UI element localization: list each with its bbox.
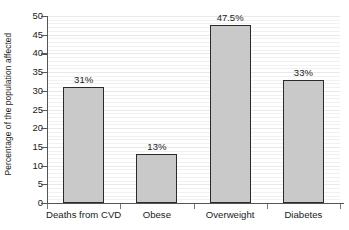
y-tick-mark — [41, 184, 47, 185]
gridline-minor — [47, 113, 340, 114]
x-tick-mark — [194, 204, 195, 209]
gridline-minor — [47, 162, 340, 163]
y-tick-label: 25 — [18, 105, 43, 115]
y-tick-label: 45 — [18, 30, 43, 40]
gridlines — [47, 16, 340, 203]
gridline-minor — [47, 196, 340, 197]
x-category-label: Deaths from CVD — [24, 209, 144, 221]
gridline-minor — [47, 83, 340, 84]
gridline-minor — [47, 117, 340, 118]
gridline-minor — [47, 199, 340, 200]
gridline-minor — [47, 27, 340, 28]
gridline-minor — [47, 102, 340, 103]
x-tick-mark — [47, 204, 48, 209]
gridline-minor — [47, 136, 340, 137]
y-tick-mark — [41, 110, 47, 111]
gridline-minor — [47, 177, 340, 178]
y-tick-mark — [41, 91, 47, 92]
y-tick-label: 10 — [18, 161, 43, 171]
y-axis-title-text: Percentage of the population affected — [3, 33, 13, 176]
y-tick-label: 20 — [18, 123, 43, 133]
y-tick-label: 35 — [18, 67, 43, 77]
y-axis-title: Percentage of the population affected — [0, 0, 16, 208]
y-axis-line — [47, 16, 48, 204]
gridline-minor — [47, 132, 340, 133]
y-tick-label: 50 — [18, 11, 43, 21]
y-tick-mark — [41, 72, 47, 73]
y-tick-mark — [41, 147, 47, 148]
gridline-minor — [47, 192, 340, 193]
gridline-minor — [47, 46, 340, 47]
gridline-minor — [47, 87, 340, 88]
x-axis-line — [41, 203, 344, 204]
gridline-minor — [47, 95, 340, 96]
gridline — [47, 128, 340, 129]
x-tick-mark — [120, 204, 121, 209]
gridline-minor — [47, 76, 340, 77]
gridline-minor — [47, 98, 340, 99]
gridline-minor — [47, 20, 340, 21]
x-tick-mark — [340, 204, 341, 209]
y-tick-label: 30 — [18, 86, 43, 96]
gridline-minor — [47, 121, 340, 122]
gridline — [47, 16, 340, 17]
gridline — [47, 72, 340, 73]
gridline-minor — [47, 61, 340, 62]
gridline-minor — [47, 50, 340, 51]
gridline-minor — [47, 31, 340, 32]
y-tick-mark — [41, 35, 47, 36]
gridline — [47, 35, 340, 36]
gridline-minor — [47, 80, 340, 81]
x-category-label: Obese — [97, 209, 217, 221]
gridline-minor — [47, 158, 340, 159]
gridline-minor — [47, 139, 340, 140]
y-tick-label: 0 — [18, 198, 43, 208]
gridline — [47, 91, 340, 92]
gridline-minor — [47, 42, 340, 43]
gridline-minor — [47, 38, 340, 39]
gridline-minor — [47, 188, 340, 189]
gridline-minor — [47, 169, 340, 170]
y-tick-mark — [41, 166, 47, 167]
y-axis-tick-labels: 05101520253035404550 — [18, 11, 43, 204]
x-category-label: Overweight — [170, 209, 290, 221]
plot-area — [47, 16, 340, 203]
gridline-minor — [47, 154, 340, 155]
gridline-minor — [47, 23, 340, 24]
gridline-minor — [47, 65, 340, 66]
gridline-minor — [47, 173, 340, 174]
gridline-minor — [47, 57, 340, 58]
gridline-minor — [47, 181, 340, 182]
gridline-minor — [47, 143, 340, 144]
gridline — [47, 166, 340, 167]
gridline — [47, 53, 340, 54]
x-category-label: Diabetes — [243, 209, 349, 221]
gridline — [47, 184, 340, 185]
x-tick-mark — [267, 204, 268, 209]
y-tick-label: 40 — [18, 48, 43, 58]
gridline-minor — [47, 68, 340, 69]
y-tick-label: 5 — [18, 179, 43, 189]
gridline — [47, 110, 340, 111]
gridline — [47, 147, 340, 148]
y-tick-mark — [41, 128, 47, 129]
y-tick-mark — [41, 16, 47, 17]
gridline-minor — [47, 106, 340, 107]
y-tick-mark — [41, 53, 47, 54]
y-tick-label: 15 — [18, 142, 43, 152]
gridline-minor — [47, 151, 340, 152]
gridline-minor — [47, 124, 340, 125]
bar-chart: Percentage of the population affected 05… — [0, 0, 349, 230]
